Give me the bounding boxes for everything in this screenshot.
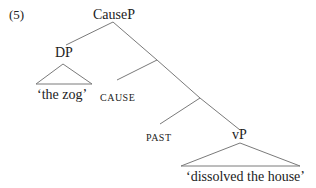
node-dp-content: ‘the zog’ — [37, 88, 87, 102]
node-causep: CauseP — [93, 8, 135, 22]
node-dp: DP — [55, 46, 73, 60]
node-vp: vP — [232, 128, 247, 142]
node-cause: CAUSE — [100, 91, 135, 105]
node-past: PAST — [146, 131, 172, 145]
node-vp-content: ‘dissolved the house’ — [186, 170, 305, 184]
example-number: (5) — [9, 8, 24, 22]
